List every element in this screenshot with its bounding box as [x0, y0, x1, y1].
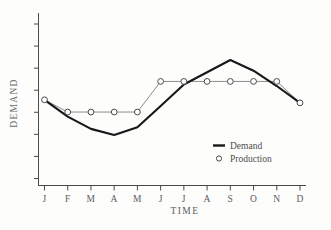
- x-axis-tick-label: A: [111, 194, 118, 204]
- y-axis-group: DEMAND: [9, 13, 39, 186]
- x-axis-title: TIME: [171, 206, 200, 216]
- chart-page: DEMAND JFMAMJJASOND TIME Demand Producti…: [0, 0, 331, 230]
- data-point-production: [274, 79, 280, 85]
- data-point-production: [204, 79, 210, 85]
- data-point-production: [297, 100, 303, 106]
- x-axis-tick-label: J: [159, 194, 163, 204]
- series-line-demand: [45, 60, 301, 135]
- x-axis-tick-label: A: [204, 194, 211, 204]
- x-axis-tick-labels: JFMAMJJASOND: [43, 194, 304, 204]
- data-point-production: [88, 109, 94, 115]
- x-axis-group: JFMAMJJASOND TIME: [38, 186, 306, 217]
- x-axis-tick-label: J: [43, 194, 47, 204]
- x-axis-tick-label: N: [273, 194, 280, 204]
- x-axis-tick-label: O: [250, 194, 257, 204]
- x-axis-tick-label: S: [228, 194, 234, 204]
- data-point-production: [42, 97, 48, 103]
- data-point-production: [158, 79, 164, 85]
- x-axis-tick-label: J: [182, 194, 186, 204]
- data-point-production: [65, 109, 71, 115]
- legend-label-demand: Demand: [230, 141, 262, 151]
- data-point-production: [181, 79, 187, 85]
- plot-area: [42, 60, 303, 135]
- x-axis-tick-label: D: [296, 194, 303, 204]
- data-point-production: [227, 79, 233, 85]
- data-point-production: [135, 109, 141, 115]
- data-point-production: [111, 109, 117, 115]
- series-line-production: [45, 81, 301, 112]
- x-axis-tick-label: F: [65, 194, 71, 204]
- demand-production-line-chart: DEMAND JFMAMJJASOND TIME Demand Producti…: [0, 0, 331, 230]
- data-point-production: [251, 79, 257, 85]
- x-axis-tick-label: M: [87, 194, 96, 204]
- x-axis-tick-label: M: [133, 194, 142, 204]
- legend-swatch-production-icon: [216, 156, 221, 161]
- legend: Demand Production: [213, 141, 272, 164]
- x-axis-ticks: [45, 186, 301, 191]
- legend-label-production: Production: [230, 154, 272, 164]
- series-markers-production: [42, 79, 303, 115]
- y-axis-title: DEMAND: [9, 78, 19, 128]
- y-axis-ticks: [34, 24, 39, 179]
